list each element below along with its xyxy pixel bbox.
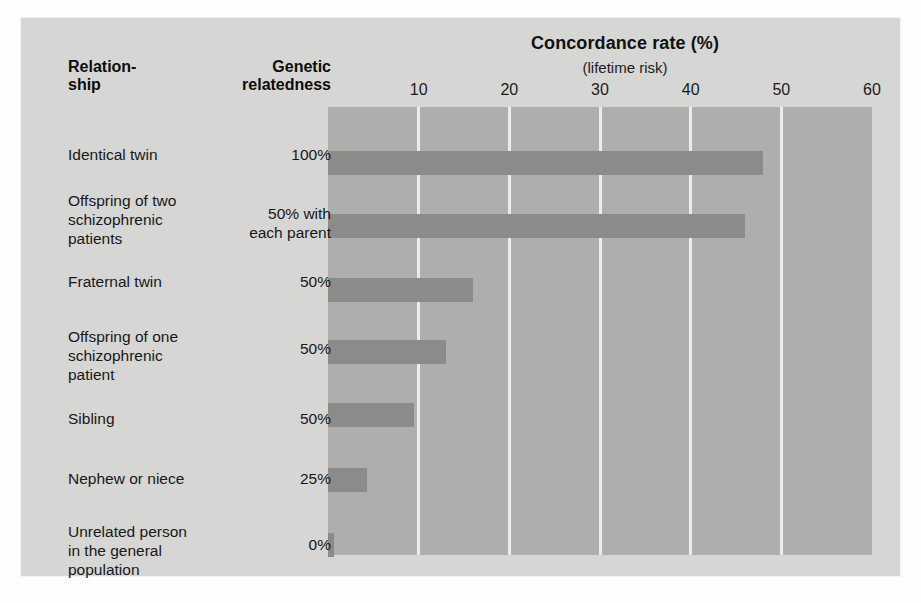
row-relatedness-line: 50% with [161,205,331,224]
row-genetic-relatedness: 0% [161,536,331,555]
x-tick-label-10: 10 [399,81,439,99]
row-relatedness-line: 50% [161,340,331,359]
row-genetic-relatedness: 50% [161,273,331,292]
bar [328,340,446,364]
row-genetic-relatedness: 50% witheach parent [161,205,331,243]
chart-card: Concordance rate (%) (lifetime risk) Rel… [21,18,900,576]
row-relatedness-line: 100% [161,146,331,165]
row-genetic-relatedness: 100% [161,146,331,165]
x-tick-label-60: 60 [852,81,892,99]
gridline-50 [780,107,783,555]
row-relatedness-line: 50% [161,273,331,292]
column-header-relatedness-line1: Genetic [161,58,331,76]
column-header-genetic-relatedness: Genetic relatedness [161,58,331,94]
bar [328,403,414,427]
row-relatedness-line: 0% [161,536,331,555]
bar [328,278,473,302]
row-genetic-relatedness: 25% [161,470,331,489]
x-tick-label-50: 50 [761,81,801,99]
bar [328,151,763,175]
x-tick-label-40: 40 [671,81,711,99]
chart-subtitle: (lifetime risk) [351,59,899,76]
plot-area [328,107,872,555]
row-genetic-relatedness: 50% [161,410,331,429]
bar [328,468,367,492]
row-label-line: patient [68,366,268,385]
row-relatedness-line: 50% [161,410,331,429]
row-label-line: population [68,561,268,580]
row-genetic-relatedness: 50% [161,340,331,359]
x-tick-label-30: 30 [580,81,620,99]
column-header-relatedness-line2: relatedness [161,76,331,94]
x-tick-label-20: 20 [489,81,529,99]
chart-title: Concordance rate (%) [351,33,899,54]
bar [328,214,745,238]
chart-figure: Concordance rate (%) (lifetime risk) Rel… [0,0,921,603]
row-relatedness-line: 25% [161,470,331,489]
row-relatedness-line: each parent [161,224,331,243]
